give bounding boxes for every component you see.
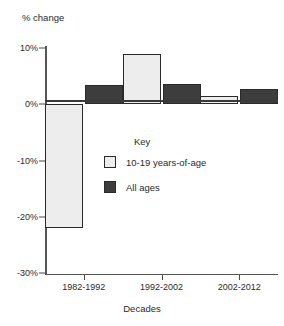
legend-label-all-ages: All ages bbox=[126, 182, 160, 193]
y-tick-label: -20% bbox=[4, 212, 38, 222]
legend-swatch-dark-icon bbox=[104, 181, 116, 193]
bar-chart-figure: % change 10%0%-10%-20%-30% Key 10-19 yea… bbox=[0, 0, 284, 326]
legend-title: Key bbox=[134, 136, 150, 147]
x-tick-label: 1992-2002 bbox=[140, 282, 183, 292]
x-tick-mark bbox=[239, 275, 240, 280]
zero-baseline bbox=[45, 100, 278, 102]
x-axis-title: Decades bbox=[0, 303, 284, 314]
bar bbox=[123, 54, 161, 105]
legend-item-youth: 10-19 years-of-age bbox=[104, 156, 206, 168]
y-tick-mark bbox=[39, 48, 45, 49]
x-tick-label: 1982-1992 bbox=[62, 282, 105, 292]
bar bbox=[45, 104, 83, 228]
x-tick-mark bbox=[162, 275, 163, 280]
y-tick-label: 0% bbox=[4, 99, 38, 109]
x-tick-label: 2002-2012 bbox=[218, 282, 261, 292]
legend-swatch-light-icon bbox=[104, 156, 116, 168]
y-tick-mark bbox=[39, 160, 45, 161]
y-tick-mark bbox=[39, 216, 45, 217]
y-axis-ticks: 10%0%-10%-20%-30% bbox=[0, 0, 38, 326]
y-tick-label: -10% bbox=[4, 156, 38, 166]
y-tick-label: -30% bbox=[4, 268, 38, 278]
bar bbox=[240, 89, 278, 105]
legend-label-youth: 10-19 years-of-age bbox=[126, 157, 206, 168]
y-tick-mark bbox=[39, 104, 45, 105]
y-tick-label: 10% bbox=[4, 43, 38, 53]
y-tick-mark bbox=[39, 273, 45, 274]
legend-item-all-ages: All ages bbox=[104, 181, 160, 193]
x-tick-mark bbox=[84, 275, 85, 280]
